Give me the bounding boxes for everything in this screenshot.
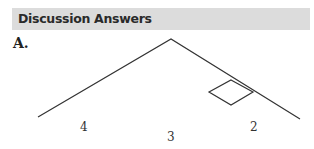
angle-diagram: 4 3 2 [0, 0, 314, 149]
label-2: 2 [250, 120, 258, 134]
label-4: 4 [80, 120, 88, 134]
label-3: 3 [167, 130, 175, 144]
right-angle-square [209, 80, 253, 105]
angle-lines [38, 39, 300, 119]
